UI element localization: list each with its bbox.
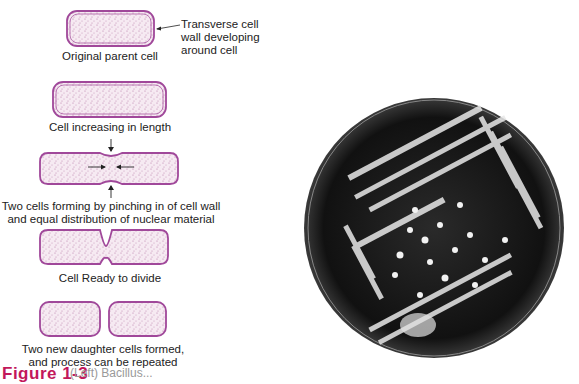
label-pinching-line1: Two cells forming by pinching in of cell…	[0, 200, 222, 213]
label-original-parent: Original parent cell	[40, 50, 180, 63]
cell-original-parent	[67, 11, 154, 46]
annotation-arrow	[156, 25, 180, 31]
annotation-line1: Transverse cell	[181, 18, 259, 31]
annotation-line3: around cell	[181, 44, 237, 57]
label-daughter-line1: Two new daughter cells formed,	[0, 343, 206, 356]
daughter-cells	[40, 302, 166, 336]
cell-pinching	[40, 139, 178, 198]
cell-ready-to-divide	[40, 230, 168, 264]
figure-caption-text: (Left) Bacillus...	[70, 366, 153, 380]
label-pinching-line2: and equal distribution of nuclear materi…	[0, 213, 222, 226]
cell-increasing-length	[53, 82, 166, 117]
label-increasing-length: Cell increasing in length	[30, 121, 190, 134]
label-ready-to-divide: Cell Ready to divide	[30, 272, 190, 285]
petri-dish-photo	[304, 98, 564, 358]
annotation-line2: wall developing	[181, 31, 260, 44]
